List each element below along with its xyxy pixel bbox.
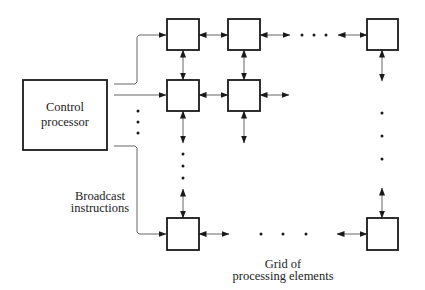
control-processor-label-line1: Control: [46, 100, 85, 114]
dots-row1-dot: [313, 34, 316, 37]
processing-element-pe-1-n: [367, 19, 398, 50]
dots-row1-dot: [325, 34, 328, 37]
dots-broadcast-dot: [137, 132, 140, 135]
broadcast-label-line2: instructions: [71, 201, 129, 215]
broadcast-instructions-label: Broadcast instructions: [71, 189, 129, 215]
processing-element-pe-1-1: [167, 19, 199, 50]
dots-broadcast-dot: [137, 121, 140, 124]
dots-rowm-dot: [282, 233, 285, 236]
processing-element-grid: [167, 19, 398, 250]
control-processor: Control processor: [23, 80, 107, 150]
grid-label-line2: processing elements: [232, 269, 333, 283]
processing-element-pe-m-n: [367, 218, 398, 250]
dots-rowm-dot: [260, 233, 263, 236]
pe-links: [183, 35, 382, 234]
dots-col1-dot: [182, 153, 185, 156]
dots-broadcast-dot: [137, 110, 140, 113]
dots-col1-dot: [182, 165, 185, 168]
dots-row1-dot: [301, 34, 304, 37]
dots-col1-dot: [182, 177, 185, 180]
dots-coln-dot: [381, 135, 384, 138]
simd-diagram: Control processor Broadcast instructions…: [0, 0, 425, 290]
dots-rowm-dot: [305, 233, 308, 236]
control-processor-label-line2: processor: [41, 115, 90, 129]
dots-coln-dot: [381, 112, 384, 115]
processing-element-pe-2-1: [167, 80, 199, 111]
dots-coln-dot: [381, 158, 384, 161]
grid-of-processing-elements-label: Grid of processing elements: [232, 257, 333, 283]
broadcast-wire-row1: [114, 35, 166, 84]
processing-element-pe-2-2: [228, 80, 260, 111]
processing-element-pe-1-2: [228, 19, 260, 50]
ellipsis-dots: [137, 34, 384, 236]
processing-element-pe-m-1: [167, 218, 199, 250]
